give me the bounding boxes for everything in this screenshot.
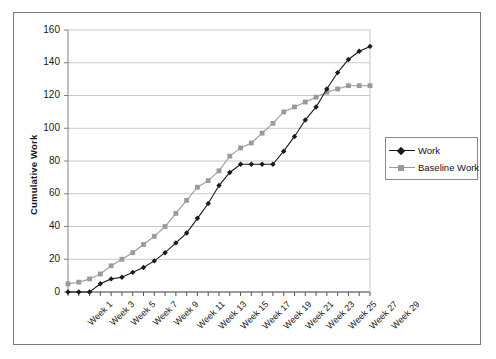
data-point-marker (141, 265, 146, 270)
data-point-marker (249, 162, 254, 167)
gridlines (68, 30, 370, 292)
data-point-marker (184, 198, 189, 203)
data-point-marker (249, 141, 254, 146)
data-point-marker (120, 257, 125, 262)
y-tick-label: 120 (30, 89, 60, 100)
data-point-marker (335, 87, 340, 92)
data-point-marker (227, 154, 232, 159)
y-axis-title: Cumulative Work (28, 135, 39, 215)
diamond-marker-icon (397, 146, 405, 154)
y-tick-label: 40 (30, 220, 60, 231)
data-point-marker (195, 185, 200, 190)
y-tick-label: 160 (30, 24, 60, 35)
y-tick-label: 0 (30, 286, 60, 297)
data-point-marker (303, 100, 308, 105)
chart-legend: Work Baseline Work (385, 137, 478, 180)
legend-label-work: Work (418, 145, 440, 156)
data-point-marker (292, 105, 297, 110)
data-point-marker (206, 178, 211, 183)
legend-swatch-work (389, 146, 415, 156)
data-point-marker (87, 277, 92, 282)
y-tick-label: 100 (30, 122, 60, 133)
legend-item-baseline-work[interactable]: Baseline Work (389, 159, 474, 176)
y-tick-label: 140 (30, 56, 60, 67)
data-point-marker (130, 270, 135, 275)
data-point-marker (259, 162, 264, 167)
data-point-marker (357, 83, 362, 88)
data-point-marker (271, 121, 276, 126)
y-tick-label: 20 (30, 253, 60, 264)
data-point-marker (66, 281, 71, 286)
data-point-marker (367, 44, 372, 49)
legend-swatch-baseline-work (389, 163, 415, 173)
data-point-marker (217, 168, 222, 173)
data-point-marker (368, 83, 373, 88)
data-point-marker (152, 234, 157, 239)
data-point-marker (76, 289, 81, 294)
data-point-marker (76, 280, 81, 285)
data-point-marker (238, 146, 243, 151)
data-point-marker (314, 95, 319, 100)
legend-item-work[interactable]: Work (389, 142, 474, 159)
data-point-marker (163, 224, 168, 229)
square-marker-icon (398, 165, 404, 171)
data-point-marker (65, 289, 70, 294)
data-point-marker (173, 211, 178, 216)
data-point-marker (141, 242, 146, 247)
legend-label-baseline-work: Baseline Work (418, 162, 479, 173)
data-point-marker (119, 275, 124, 280)
data-point-marker (109, 263, 114, 268)
data-point-marker (130, 250, 135, 255)
data-point-marker (346, 83, 351, 88)
data-point-marker (260, 131, 265, 136)
x-axis-ticks (68, 292, 370, 296)
data-point-marker (281, 109, 286, 114)
data-point-marker (108, 276, 113, 281)
data-point-marker (98, 272, 103, 277)
